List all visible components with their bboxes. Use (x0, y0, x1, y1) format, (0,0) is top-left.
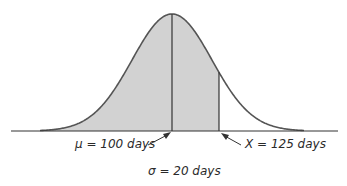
shaded-area (40, 14, 219, 131)
sigma-label: σ = 20 days (148, 164, 221, 178)
x-value-label: X = 125 days (245, 137, 326, 151)
normal-curve-diagram (0, 0, 347, 186)
mean-arrowhead (163, 132, 171, 139)
mean-label: μ = 100 days (75, 137, 155, 151)
x-arrowhead (221, 133, 229, 140)
